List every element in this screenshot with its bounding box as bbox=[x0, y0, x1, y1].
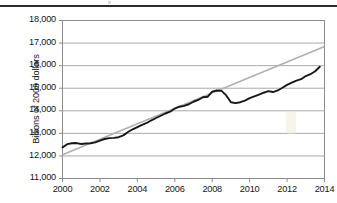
y-tick-label: 17,000 bbox=[6, 37, 56, 47]
x-tick-label: 2004 bbox=[117, 184, 157, 194]
x-tick-label: 2012 bbox=[267, 184, 307, 194]
x-tick-label: 2010 bbox=[230, 184, 270, 194]
x-tick-label: 2006 bbox=[155, 184, 195, 194]
x-tick-label: 2014 bbox=[305, 184, 337, 194]
x-tick-label: 2008 bbox=[192, 184, 232, 194]
y-tick-label: 12,000 bbox=[6, 150, 56, 160]
y-tick-marks-group bbox=[59, 21, 63, 179]
y-tick-label: 16,000 bbox=[6, 59, 56, 69]
paper-watermark-artifact bbox=[286, 112, 296, 134]
y-tick-label: 15,000 bbox=[6, 82, 56, 92]
y-tick-label: 13,000 bbox=[6, 127, 56, 137]
y-tick-label: 18,000 bbox=[6, 14, 56, 24]
y-tick-label: 14,000 bbox=[6, 104, 56, 114]
plot-frame bbox=[63, 21, 325, 179]
x-tick-marks-group bbox=[63, 179, 325, 183]
y-tick-label: 11,000 bbox=[6, 172, 56, 182]
x-tick-label: 2000 bbox=[43, 184, 83, 194]
chart-figure: Billions of 2009 dollars 11,00012,00013,… bbox=[0, 0, 337, 203]
x-tick-label: 2002 bbox=[80, 184, 120, 194]
